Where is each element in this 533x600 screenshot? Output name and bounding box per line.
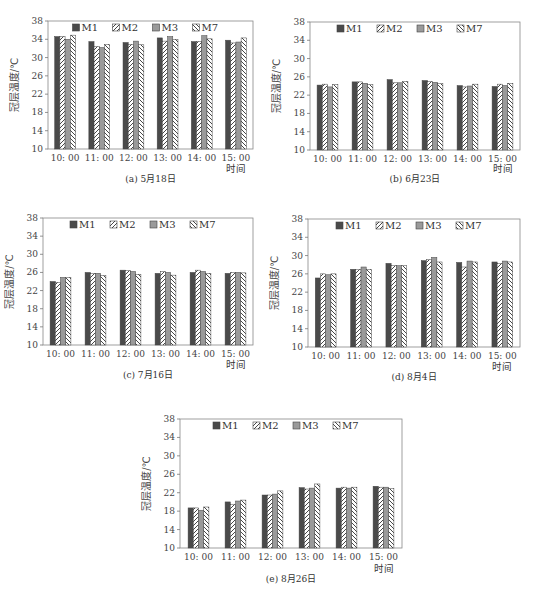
legend: M1M2M3M7: [213, 420, 359, 431]
legend-label: M3: [425, 220, 442, 231]
chart-caption: (d) 8月4日: [391, 372, 436, 382]
y-tick-label: 38: [27, 213, 39, 223]
bar-m3: [96, 273, 101, 345]
bar-m1: [226, 40, 231, 149]
x-tick-label: 10: 00: [51, 153, 80, 163]
y-axis: 1014182226303438: [27, 213, 43, 350]
bar-m7: [104, 44, 109, 149]
bar-m1: [299, 488, 304, 548]
bar-m3: [502, 261, 507, 347]
x-tick-label: 13: 00: [417, 351, 446, 361]
bar-m7: [278, 491, 283, 548]
y-tick-label: 26: [294, 72, 306, 82]
bar-m2: [427, 81, 432, 150]
bar-m3: [273, 494, 278, 548]
bar-chart-d: 1014182226303438冠层温度/℃10: 0011: 0012: 00…: [265, 200, 533, 400]
bar-m2: [90, 273, 95, 345]
bar-m3: [363, 83, 368, 150]
bar-m1: [157, 38, 162, 149]
bar-m7: [508, 262, 513, 347]
bar-m3: [384, 487, 389, 548]
y-axis-label: 冠层温度/℃: [268, 256, 280, 311]
legend-label: M3: [302, 420, 319, 431]
legend-label: M2: [122, 22, 139, 33]
bar-m2: [195, 270, 200, 345]
bar-m2: [60, 37, 65, 149]
bar-m3: [131, 272, 136, 345]
bars: [315, 257, 512, 347]
legend-swatch-m7: [333, 422, 340, 429]
bar-m3: [199, 510, 204, 548]
bar-m1: [421, 261, 426, 347]
legend-swatch-m1: [336, 222, 343, 229]
bar-m7: [241, 38, 246, 149]
bar-m2: [125, 271, 130, 345]
legend-label: M7: [465, 220, 482, 231]
bar-m1: [492, 86, 497, 150]
x-tick-label: 12: 00: [116, 349, 145, 359]
legend-swatch-m1: [70, 221, 77, 228]
bar-m1: [492, 262, 497, 347]
y-tick-label: 34: [27, 231, 39, 241]
bar-m2: [462, 87, 467, 150]
x-tick-label: 15: 00: [222, 153, 251, 163]
legend-label: M7: [342, 420, 359, 431]
bar-m1: [89, 42, 94, 149]
x-tick-label: 12: 00: [382, 351, 411, 361]
legend-swatch-m3: [416, 222, 423, 229]
bar-m3: [202, 36, 207, 149]
bar-m1: [386, 263, 391, 347]
chart-caption: (a) 5月18日: [125, 174, 175, 184]
legend-swatch-m3: [150, 221, 157, 228]
y-tick-label: 26: [27, 267, 39, 277]
y-tick-label: 22: [164, 488, 175, 498]
bars: [188, 484, 394, 548]
legend-label: M1: [82, 22, 99, 33]
bar-m3: [236, 42, 241, 149]
legend: M1M2M3M7: [70, 219, 216, 230]
bar-m1: [387, 80, 392, 150]
y-axis: 1014182226303438: [294, 17, 310, 155]
chart-panel-c: 1014182226303438冠层温度/℃10: 0011: 0012: 00…: [0, 200, 265, 400]
bar-m2: [357, 82, 362, 150]
legend-swatch-m7: [190, 221, 197, 228]
bar-m3: [433, 82, 438, 150]
bar-m3: [398, 83, 403, 150]
bar-m2: [320, 274, 325, 347]
legend-label: M2: [385, 220, 402, 231]
bar-m7: [508, 83, 513, 150]
bar-m7: [173, 39, 178, 149]
y-tick-label: 30: [292, 251, 304, 261]
chart-panel-a: 1014182226303438冠层温度/℃10: 0011: 0012: 00…: [0, 0, 265, 200]
bar-m1: [225, 502, 230, 548]
bar-m7: [389, 489, 394, 548]
x-tick-label: 11: 00: [348, 154, 377, 164]
bar-m3: [166, 272, 171, 345]
bar-m3: [328, 87, 333, 150]
y-tick-label: 18: [164, 506, 176, 516]
bar-m2: [160, 272, 165, 345]
chart-panel-e: 1014182226303438冠层温度/℃10: 0011: 0012: 00…: [130, 405, 410, 600]
x-tick-label: 13: 00: [295, 552, 324, 562]
bar-m1: [457, 86, 462, 150]
legend-label: M2: [262, 420, 279, 431]
bar-m2: [426, 260, 431, 347]
bar-m3: [168, 37, 173, 149]
bar-m3: [99, 48, 104, 149]
bar-m2: [341, 487, 346, 548]
bar-m7: [136, 274, 141, 345]
bar-m1: [422, 81, 427, 150]
bar-m7: [352, 487, 357, 548]
x-tick-label: 15: 00: [488, 351, 517, 361]
plot-area: [48, 21, 253, 149]
legend-swatch-m3: [153, 24, 160, 31]
bar-m1: [188, 508, 193, 548]
bar-m7: [438, 84, 443, 150]
x-tick-label: 14: 00: [186, 349, 215, 359]
bar-m1: [317, 85, 322, 150]
bar-m2: [356, 269, 361, 347]
bar-m2: [267, 495, 272, 548]
y-tick-label: 10: [32, 144, 44, 154]
bar-m7: [66, 277, 71, 345]
legend-swatch-m7: [193, 24, 200, 31]
